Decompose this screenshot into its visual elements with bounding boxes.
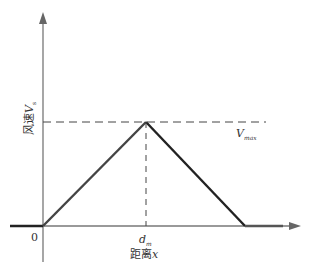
dm-sub: m <box>146 240 152 247</box>
x-axis-arrow-icon <box>289 222 301 230</box>
y-axis-label-var: V <box>23 105 36 113</box>
vmax-var: V <box>236 127 244 140</box>
curve-rising <box>43 122 146 226</box>
x-axis-label-var: x <box>152 248 158 261</box>
x-axis-label-text: 距离 <box>130 248 152 261</box>
y-axis-label-sub: s <box>30 102 37 105</box>
diagram-canvas <box>0 0 311 274</box>
dm-label: dm <box>139 234 152 247</box>
x-axis-label: 距离x <box>130 249 158 260</box>
dm-var: d <box>139 233 146 246</box>
origin-label: 0 <box>31 232 38 243</box>
y-axis-label-text: 风速 <box>23 113 36 135</box>
vmax-sub: max <box>244 134 257 141</box>
vmax-label: Vmax <box>236 128 257 141</box>
y-axis-arrow-icon <box>39 12 47 24</box>
curve-falling <box>146 122 245 226</box>
y-axis-label: 风速Vs <box>24 102 37 135</box>
